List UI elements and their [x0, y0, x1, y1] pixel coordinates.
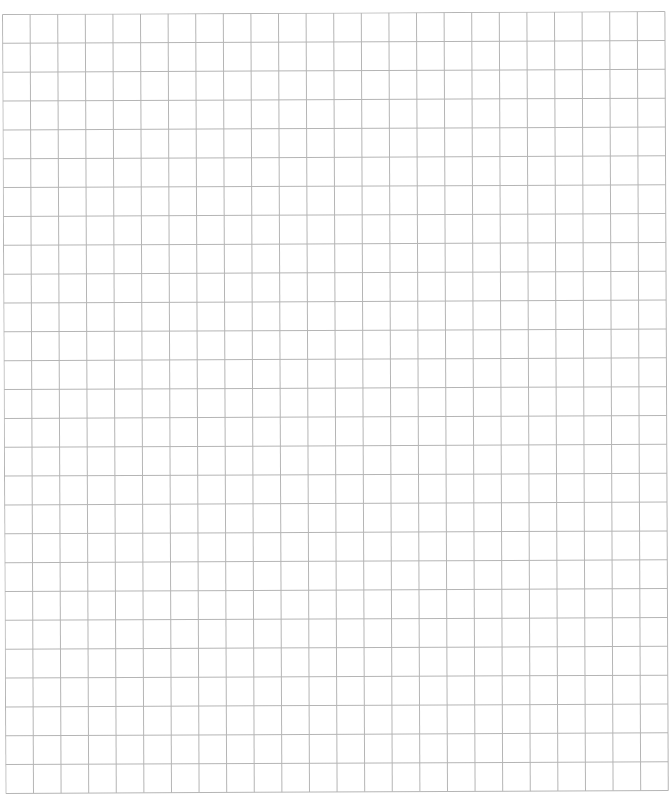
- grid-vertical-line: [3, 14, 6, 793]
- grid-vertical-line: [278, 13, 281, 792]
- grid-vertical-line: [168, 14, 171, 793]
- grid-vertical-line: [582, 12, 585, 791]
- grid-vertical-line: [196, 14, 199, 793]
- grid-vertical-line: [223, 14, 226, 793]
- grid-vertical-line: [444, 13, 447, 792]
- grid-lines: [2, 11, 670, 795]
- grid-vertical-line: [416, 13, 419, 792]
- grid-vertical-line: [472, 12, 475, 791]
- grid-paper-sheet: [2, 11, 670, 795]
- grid-vertical-line: [334, 13, 337, 792]
- grid-vertical-line: [499, 12, 502, 791]
- grid-vertical-line: [610, 12, 613, 791]
- grid-vertical-line: [85, 14, 88, 793]
- grid-vertical-line: [665, 12, 668, 791]
- grid-vertical-line: [554, 12, 557, 791]
- grid-vertical-line: [251, 13, 254, 792]
- grid-vertical-line: [389, 13, 392, 792]
- grid-vertical-line: [306, 13, 309, 792]
- grid-vertical-line: [113, 14, 116, 793]
- grid-vertical-line: [30, 14, 33, 793]
- grid-vertical-line: [361, 13, 364, 792]
- grid-vertical-line: [140, 14, 143, 793]
- grid-vertical-line: [527, 12, 530, 791]
- grid-vertical-line: [637, 12, 640, 791]
- grid-vertical-line: [58, 14, 61, 793]
